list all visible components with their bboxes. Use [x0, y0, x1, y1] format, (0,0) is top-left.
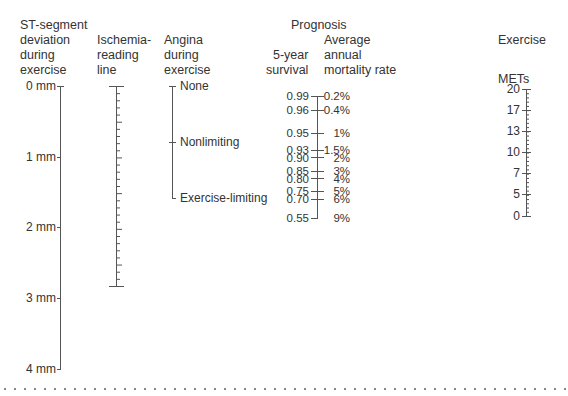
mets-7: 7	[513, 167, 520, 180]
mets-0: 0	[513, 210, 520, 223]
mortality-0.4: 0.4%	[324, 105, 350, 116]
nomogram-axes	[0, 0, 568, 396]
mets-17: 17	[507, 104, 520, 117]
mortality-1: 1%	[333, 128, 350, 139]
st-label-3: 3 mm	[26, 292, 56, 305]
survival-0.90: 0.90	[287, 153, 309, 164]
angina-label-none: None	[180, 80, 209, 93]
mortality-2: 2%	[333, 153, 350, 164]
survival-0.99: 0.99	[287, 91, 309, 102]
angina-label-exercise-limiting: Exercise-limiting	[180, 192, 267, 205]
survival-0.80: 0.80	[287, 174, 309, 185]
survival-0.55: 0.55	[287, 213, 309, 224]
mortality-0.2: 0.2%	[324, 91, 350, 102]
mortality-6: 6%	[333, 194, 350, 205]
mortality-4: 4%	[333, 174, 350, 185]
mets-20: 20	[507, 83, 520, 96]
survival-0.96: 0.96	[287, 105, 309, 116]
st-label-0: 0 mm	[26, 80, 56, 93]
st-label-2: 2 mm	[26, 221, 56, 234]
mets-13: 13	[507, 125, 520, 138]
angina-label-nonlimiting: Nonlimiting	[180, 136, 239, 149]
mets-5: 5	[513, 188, 520, 201]
dotted-divider	[0, 388, 568, 390]
mets-10: 10	[507, 146, 520, 159]
survival-0.70: 0.70	[287, 194, 309, 205]
st-label-1: 1 mm	[26, 151, 56, 164]
survival-0.95: 0.95	[287, 128, 309, 139]
mortality-9: 9%	[333, 213, 350, 224]
st-label-4: 4 mm	[26, 363, 56, 376]
